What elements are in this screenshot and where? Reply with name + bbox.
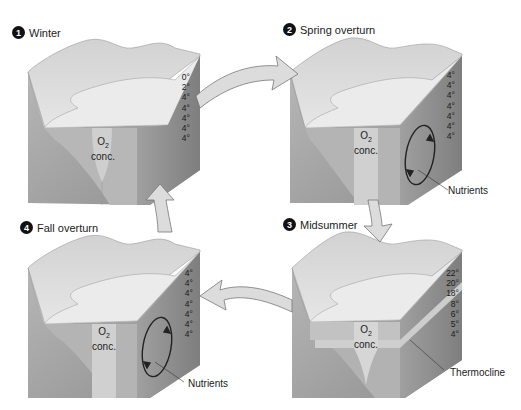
temperature-profile-fall: 4° 4° 4° 4° 4° 4° 4° xyxy=(179,268,193,339)
temperature-label: 4° xyxy=(179,319,193,329)
stage-number-badge: 4 xyxy=(20,221,33,234)
o2-symbol: O xyxy=(97,136,105,147)
temperature-label: 6° xyxy=(441,309,459,319)
o2-concentration-label-midsummer: O2 conc. xyxy=(351,324,381,350)
temperature-label: 4° xyxy=(176,92,190,102)
cycle-arrow-midsummer-to-fall xyxy=(200,280,292,312)
temperature-label: 4° xyxy=(176,133,190,143)
callout-nutrients-spring: Nutrients xyxy=(448,185,488,196)
temperature-label: 4° xyxy=(179,299,193,309)
o2-symbol: O xyxy=(360,130,368,141)
block-spring xyxy=(290,38,462,205)
temperature-label: 4° xyxy=(441,80,455,90)
temperature-label: 4° xyxy=(441,101,455,111)
o2-subscript: 2 xyxy=(368,136,372,143)
stage-label: Spring overturn xyxy=(300,24,375,36)
temperature-label: 4° xyxy=(179,278,193,288)
o2-concentration-label-spring: O2 conc. xyxy=(351,130,381,156)
temperature-label: 4° xyxy=(441,131,455,141)
o2-conc-text: conc. xyxy=(89,341,119,352)
callout-thermocline: Thermocline xyxy=(450,367,505,378)
block-midsummer xyxy=(292,232,462,398)
stage-title-spring: 2 Spring overturn xyxy=(283,23,375,36)
block-winter xyxy=(28,39,200,205)
o2-concentration-label-winter: O2 conc. xyxy=(88,136,118,162)
stage-number-badge: 1 xyxy=(12,26,25,39)
o2-symbol: O xyxy=(98,326,106,337)
cycle-arrow-spring-to-midsummer xyxy=(364,200,392,242)
temperature-label: 2° xyxy=(176,82,190,92)
o2-conc-text: conc. xyxy=(351,145,381,156)
temperature-label: 4° xyxy=(176,123,190,133)
temperature-label: 18° xyxy=(441,288,459,298)
block-fall xyxy=(28,235,200,398)
temperature-label: 22° xyxy=(441,268,459,278)
stage-title-winter: 1 Winter xyxy=(12,26,61,39)
o2-conc-text: conc. xyxy=(88,151,118,162)
o2-symbol: O xyxy=(360,324,368,335)
temperature-label: 8° xyxy=(441,299,459,309)
o2-subscript: 2 xyxy=(105,142,109,149)
temperature-profile-midsummer: 22° 20° 18° 8° 6° 5° 4° xyxy=(441,268,459,339)
o2-concentration-label-fall: O2 conc. xyxy=(89,326,119,352)
temperature-label: 4° xyxy=(441,121,455,131)
o2-subscript: 2 xyxy=(368,330,372,337)
temperature-label: 4° xyxy=(441,111,455,121)
stage-title-fall: 4 Fall overturn xyxy=(20,221,98,234)
temperature-label: 4° xyxy=(176,103,190,113)
temperature-label: 4° xyxy=(179,268,193,278)
temperature-profile-winter: 0° 2° 4° 4° 4° 4° 4° xyxy=(176,72,190,143)
stage-label: Midsummer xyxy=(300,219,357,231)
temperature-label: 5° xyxy=(441,319,459,329)
stage-label: Winter xyxy=(29,27,61,39)
temperature-label: 4° xyxy=(441,90,455,100)
temperature-label: 4° xyxy=(176,113,190,123)
stage-label: Fall overturn xyxy=(37,222,98,234)
diagram-canvas xyxy=(0,0,521,410)
stage-number-badge: 3 xyxy=(283,218,296,231)
cycle-arrow-winter-to-spring xyxy=(196,56,298,108)
o2-subscript: 2 xyxy=(106,332,110,339)
temperature-label: 20° xyxy=(441,278,459,288)
temperature-profile-spring: 4° 4° 4° 4° 4° 4° 4° xyxy=(441,70,455,141)
temperature-label: 4° xyxy=(179,288,193,298)
stage-number-badge: 2 xyxy=(283,23,296,36)
stage-title-midsummer: 3 Midsummer xyxy=(283,218,357,231)
temperature-label: 4° xyxy=(179,309,193,319)
o2-conc-text: conc. xyxy=(351,339,381,350)
callout-nutrients-fall: Nutrients xyxy=(188,378,228,389)
temperature-label: 4° xyxy=(179,329,193,339)
temperature-label: 4° xyxy=(441,329,459,339)
temperature-label: 0° xyxy=(176,72,190,82)
temperature-label: 4° xyxy=(441,70,455,80)
